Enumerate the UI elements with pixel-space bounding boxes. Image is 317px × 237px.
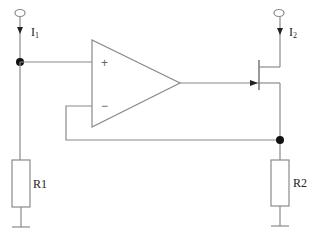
i1-label: I1 xyxy=(31,25,39,40)
r2-label: R2 xyxy=(293,176,307,190)
opamp-minus-label: − xyxy=(101,99,108,113)
circuit-diagram: I1 R1 + − I2 R2 xyxy=(0,0,317,237)
i2-terminal xyxy=(274,10,284,37)
gate-arrow-icon xyxy=(250,80,258,86)
node-right xyxy=(276,136,284,144)
i2-label: I2 xyxy=(289,25,297,40)
opamp-plus-label: + xyxy=(101,56,108,70)
resistor-r2 xyxy=(271,160,289,206)
opamp-triangle xyxy=(92,40,180,127)
feedback-wire xyxy=(66,106,280,140)
i2-arrow-icon xyxy=(277,28,283,35)
resistor-r1 xyxy=(12,160,30,207)
i1-terminal xyxy=(15,10,25,63)
r1-label: R1 xyxy=(33,177,47,191)
i1-arrow-icon xyxy=(17,27,23,34)
